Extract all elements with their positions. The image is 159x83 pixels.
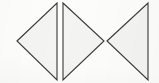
triangle-diagram: [0, 0, 159, 83]
figure-canvas: [0, 0, 159, 83]
